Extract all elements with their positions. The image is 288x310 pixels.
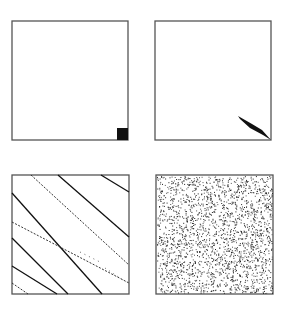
sparsity-figure [0, 0, 288, 310]
figure-background [0, 0, 288, 310]
dense-block [117, 128, 128, 140]
